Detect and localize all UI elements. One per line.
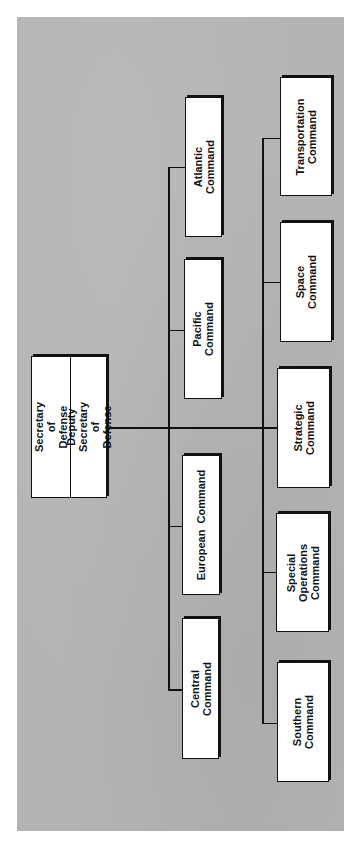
european-command-label: European Command (195, 470, 207, 581)
connector-transportation (262, 138, 280, 139)
space-command-box: Space Command (280, 222, 332, 342)
secretary-of-defense-label: Secretary of Defense (33, 402, 69, 452)
strategic-command-label: Strategic Command (292, 401, 316, 455)
connector-pacific (168, 330, 184, 331)
atlantic-command-box: Atlantic Command (185, 97, 222, 237)
transportation-command-box: Transportation Command (280, 77, 332, 196)
root-trunk-line (106, 427, 277, 429)
connector-central (168, 689, 182, 691)
southern-command-label: Southern Command (291, 695, 315, 749)
deputy-secretary-label: Deputy Secretary of Defense (65, 402, 113, 452)
diagram-background: Secretary of Defense Deputy Secretary of… (17, 17, 344, 831)
central-command-label: Central Command (189, 662, 213, 716)
space-command-label: Space Command (294, 255, 318, 309)
atlantic-command-label: Atlantic Command (192, 140, 216, 194)
connector-space (262, 282, 280, 283)
southern-command-box: Southern Command (277, 662, 329, 782)
connector-southern (262, 723, 277, 724)
secretary-of-defense-box: Secretary of Defense Deputy Secretary of… (31, 356, 107, 498)
pacific-command-box: Pacific Command (184, 259, 222, 399)
transportation-command-label: Transportation Command (294, 98, 318, 175)
connector-special-operations (262, 572, 276, 573)
pacific-command-label: Pacific Command (191, 302, 215, 356)
central-command-box: Central Command (182, 618, 219, 759)
special-operations-command-label: Special Operations Command (285, 543, 321, 601)
upper-spine-line (168, 167, 170, 690)
lower-spine-line (262, 138, 264, 724)
strategic-command-box: Strategic Command (277, 368, 330, 488)
connector-atlantic (168, 167, 185, 168)
european-command-box: European Command (182, 455, 220, 595)
special-operations-command-box: Special Operations Command (276, 513, 329, 632)
connector-european (168, 526, 182, 527)
